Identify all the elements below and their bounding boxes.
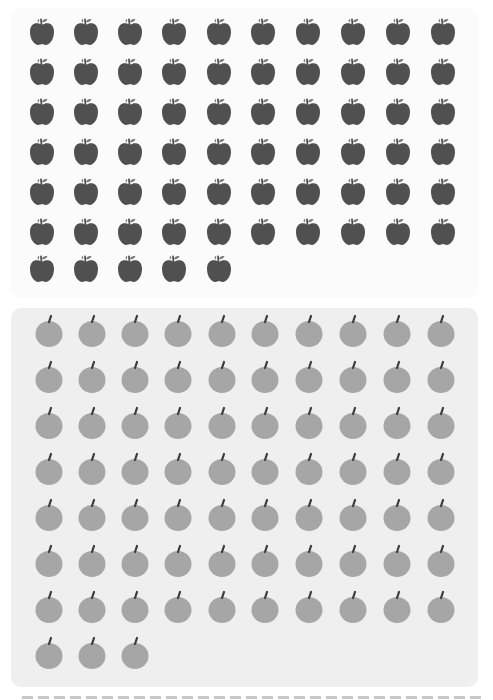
apple-dark-icon xyxy=(384,17,412,51)
apple-light-icon xyxy=(120,452,150,490)
apple-light-icon xyxy=(207,406,237,444)
apple-light-icon xyxy=(34,544,64,582)
apple-light-icon xyxy=(207,360,237,398)
apple-dark-icon xyxy=(249,57,277,91)
apple-light-icon xyxy=(294,544,324,582)
apple-dark-icon xyxy=(116,17,144,51)
apple-dark-icon xyxy=(249,17,277,51)
apple-light-icon xyxy=(77,544,107,582)
apple-dark-icon xyxy=(249,217,277,251)
apple-dark-icon xyxy=(205,254,233,288)
apple-dark-icon xyxy=(339,217,367,251)
apple-light-icon xyxy=(207,498,237,536)
apple-light-icon xyxy=(426,544,456,582)
apple-dark-icon xyxy=(205,57,233,91)
apple-light-icon xyxy=(163,314,193,352)
apple-dark-icon xyxy=(116,57,144,91)
apple-dark-icon xyxy=(72,97,100,131)
apple-dark-icon xyxy=(249,177,277,211)
apple-light-icon xyxy=(426,590,456,628)
apple-light-icon xyxy=(426,452,456,490)
apple-light-icon xyxy=(294,314,324,352)
apple-dark-icon xyxy=(429,217,457,251)
apple-light-icon xyxy=(34,360,64,398)
apple-light-icon xyxy=(382,452,412,490)
apple-dark-icon xyxy=(339,177,367,211)
apple-light-icon xyxy=(338,590,368,628)
apple-dark-icon xyxy=(384,57,412,91)
apple-light-icon xyxy=(34,314,64,352)
apple-dark-icon xyxy=(429,17,457,51)
apple-light-icon xyxy=(250,590,280,628)
apple-light-icon xyxy=(34,636,64,674)
apple-light-icon xyxy=(207,314,237,352)
apple-light-icon xyxy=(207,544,237,582)
apple-light-icon xyxy=(382,498,412,536)
apple-light-icon xyxy=(163,544,193,582)
apple-dark-icon xyxy=(429,137,457,171)
apple-light-icon xyxy=(120,314,150,352)
apple-light-icon xyxy=(163,590,193,628)
apple-light-icon xyxy=(250,360,280,398)
apple-dark-icon xyxy=(160,177,188,211)
apple-dark-icon xyxy=(28,137,56,171)
apple-dark-icon xyxy=(339,17,367,51)
apple-dark-icon xyxy=(205,217,233,251)
apple-light-icon xyxy=(120,498,150,536)
apple-light-icon xyxy=(338,406,368,444)
apple-dark-icon xyxy=(72,217,100,251)
apple-dark-icon xyxy=(205,97,233,131)
apple-light-icon xyxy=(77,314,107,352)
apple-light-icon xyxy=(207,590,237,628)
apple-dark-icon xyxy=(28,254,56,288)
apple-light-icon xyxy=(382,590,412,628)
apple-dark-icon xyxy=(339,97,367,131)
apple-dark-icon xyxy=(384,177,412,211)
apple-light-icon xyxy=(120,636,150,674)
apple-dark-icon xyxy=(429,177,457,211)
apple-dark-icon xyxy=(249,97,277,131)
apple-light-icon xyxy=(250,498,280,536)
apple-light-icon xyxy=(120,544,150,582)
apple-dark-icon xyxy=(205,177,233,211)
apple-dark-icon xyxy=(384,217,412,251)
apple-light-icon xyxy=(77,636,107,674)
apple-dark-icon xyxy=(384,137,412,171)
apple-dark-icon xyxy=(384,97,412,131)
apple-light-icon xyxy=(338,498,368,536)
apple-light-icon xyxy=(77,360,107,398)
apple-light-icon xyxy=(338,544,368,582)
apple-dark-icon xyxy=(160,217,188,251)
apple-dark-icon xyxy=(205,137,233,171)
apple-light-icon xyxy=(338,314,368,352)
apple-dark-icon xyxy=(205,17,233,51)
apple-light-icon xyxy=(338,452,368,490)
apple-light-icon xyxy=(207,452,237,490)
apple-light-icon xyxy=(426,360,456,398)
apple-light-icon xyxy=(294,452,324,490)
apple-light-icon xyxy=(382,544,412,582)
apple-light-icon xyxy=(77,406,107,444)
apple-dark-icon xyxy=(160,254,188,288)
apple-light-icon xyxy=(34,406,64,444)
apple-light-icon xyxy=(294,590,324,628)
apple-dark-icon xyxy=(160,137,188,171)
apple-dark-icon xyxy=(294,177,322,211)
apple-dark-icon xyxy=(160,97,188,131)
apple-dark-icon xyxy=(116,254,144,288)
apple-light-icon xyxy=(294,498,324,536)
apple-dark-icon xyxy=(160,57,188,91)
apple-dark-icon xyxy=(116,177,144,211)
apple-dark-icon xyxy=(72,177,100,211)
apple-light-icon xyxy=(382,360,412,398)
apple-dark-icon xyxy=(429,97,457,131)
apple-light-icon xyxy=(120,360,150,398)
apple-dark-icon xyxy=(72,137,100,171)
apple-dark-icon xyxy=(28,177,56,211)
apple-light-icon xyxy=(426,498,456,536)
apple-light-icon xyxy=(163,360,193,398)
apple-dark-icon xyxy=(339,137,367,171)
apple-light-icon xyxy=(426,314,456,352)
apple-light-icon xyxy=(294,406,324,444)
apple-light-icon xyxy=(382,314,412,352)
